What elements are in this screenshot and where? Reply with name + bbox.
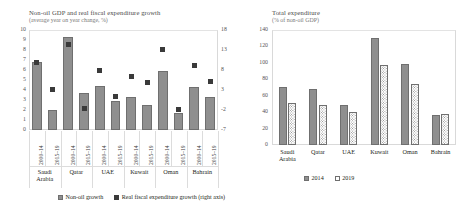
period-separator <box>76 131 77 166</box>
country-label: Oman <box>395 148 426 155</box>
country-label: Bahrain <box>425 148 456 155</box>
country-label: UAE <box>92 168 124 175</box>
y-tick-label: 2 <box>10 107 26 113</box>
bar-non-oil-growth <box>111 101 121 130</box>
y-tick-label: 5 <box>10 77 26 83</box>
legend-label: 2014 <box>312 175 324 181</box>
secondary-y-tick-label: 18 <box>221 27 239 33</box>
marker-real-fiscal-expenditure-growth <box>129 74 134 79</box>
y-tick-label: 60 <box>248 93 268 99</box>
country-separator <box>155 166 156 188</box>
bar-2014 <box>371 38 379 145</box>
y-tick-label: 120 <box>248 43 268 49</box>
y-tick-label: 20 <box>248 126 268 132</box>
country-separator <box>29 166 30 188</box>
marker-real-fiscal-expenditure-growth <box>145 80 150 85</box>
y-tick-label: 4 <box>10 87 26 93</box>
secondary-y-tick-label: 8 <box>221 67 239 73</box>
y-tick-label: 1 <box>10 117 26 123</box>
bar-non-oil-growth <box>48 110 58 130</box>
marker-real-fiscal-expenditure-growth <box>208 79 213 84</box>
y-tick-label: 100 <box>248 60 268 66</box>
country-separator <box>218 166 219 188</box>
country-label: Bahrain <box>187 168 219 175</box>
legend-swatch-dotted-icon <box>335 176 340 181</box>
country-label: Qatar <box>303 148 334 155</box>
marker-real-fiscal-expenditure-growth <box>82 106 87 111</box>
legend-item-real-fiscal-expenditure-growth: Real fiscal expenditure growth (right ax… <box>114 194 225 200</box>
bar-non-oil-growth <box>63 37 73 130</box>
legend-swatch-solid-icon <box>58 195 63 200</box>
period-separator <box>139 131 140 166</box>
country-separator <box>187 166 188 188</box>
bar-2019 <box>288 103 296 145</box>
y-tick-label: 6 <box>10 67 26 73</box>
legend-item-2019: 2019 <box>335 175 355 181</box>
left-chart-panel: Non-oil GDP and real fiscal expenditure … <box>0 0 240 210</box>
legend-label: Real fiscal expenditure growth (right ax… <box>122 194 225 200</box>
left-chart-legend: Non-oil growth Real fiscal expenditure g… <box>58 194 233 200</box>
country-separator <box>92 166 93 188</box>
period-separator <box>108 131 109 166</box>
country-label: Kuwait <box>364 148 395 155</box>
secondary-y-tick-label: 3 <box>221 87 239 93</box>
secondary-y-tick-label: 13 <box>221 47 239 53</box>
bar-2019 <box>380 65 388 145</box>
y-tick-label: 0 <box>248 142 268 148</box>
legend-item-non-oil-growth: Non-oil growth <box>58 194 103 200</box>
bar-non-oil-growth <box>32 62 42 130</box>
bar-non-oil-growth <box>95 86 105 130</box>
bar-2019 <box>349 112 357 145</box>
marker-real-fiscal-expenditure-growth <box>50 87 55 92</box>
left-chart-title: Non-oil GDP and real fiscal expenditure … <box>29 9 160 17</box>
period-separator <box>45 131 46 166</box>
bar-2014 <box>309 89 317 145</box>
country-label: Saudi Arabia <box>29 168 61 182</box>
period-separator <box>92 131 93 166</box>
right-chart-subtitle: (% of non-oil GDP) <box>272 17 319 24</box>
bar-non-oil-growth <box>205 97 215 130</box>
marker-real-fiscal-expenditure-growth <box>160 47 165 52</box>
bar-2014 <box>401 64 409 145</box>
secondary-y-tick-label: -2 <box>221 107 239 113</box>
y-tick-label: 8 <box>10 47 26 53</box>
legend-item-2014: 2014 <box>304 175 324 181</box>
y-tick-label: 10 <box>10 27 26 33</box>
period-separator <box>202 131 203 166</box>
bar-non-oil-growth <box>174 113 184 130</box>
period-separator <box>124 131 125 166</box>
bar-2014 <box>340 105 348 145</box>
y-tick-label: 140 <box>248 27 268 33</box>
country-label: Oman <box>155 168 187 175</box>
y-tick-label: 80 <box>248 76 268 82</box>
marker-real-fiscal-expenditure-growth <box>113 94 118 99</box>
marker-real-fiscal-expenditure-growth <box>97 68 102 73</box>
right-chart-legend: 2014 2019 <box>304 175 362 181</box>
bar-2014 <box>432 115 440 145</box>
period-separator <box>171 131 172 166</box>
bar-non-oil-growth <box>79 93 89 130</box>
marker-real-fiscal-expenditure-growth <box>192 63 197 68</box>
right-chart-panel: Total expenditure (% of non-oil GDP) 020… <box>240 0 464 210</box>
left-chart-subtitle: (average year on year change, %) <box>29 17 108 24</box>
country-label: Kuwait <box>124 168 156 175</box>
bar-non-oil-growth <box>158 71 168 130</box>
period-separator <box>29 131 30 166</box>
y-tick-label: 3 <box>10 97 26 103</box>
period-separator <box>218 131 219 166</box>
bar-non-oil-growth <box>142 105 152 130</box>
bar-2019 <box>319 105 327 145</box>
legend-swatch-solid-icon <box>304 176 309 181</box>
legend-swatch-marker-icon <box>114 195 119 200</box>
marker-real-fiscal-expenditure-growth <box>66 42 71 47</box>
period-separator <box>155 131 156 166</box>
bar-non-oil-growth <box>126 97 136 130</box>
legend-label: Non-oil growth <box>66 194 104 200</box>
country-separator <box>61 166 62 188</box>
bar-non-oil-growth <box>189 87 199 130</box>
right-plot-area <box>272 30 456 145</box>
bar-2019 <box>441 114 449 145</box>
y-tick-label: 40 <box>248 109 268 115</box>
country-label: Saudi Arabia <box>272 148 303 162</box>
y-tick-label: 9 <box>10 37 26 43</box>
